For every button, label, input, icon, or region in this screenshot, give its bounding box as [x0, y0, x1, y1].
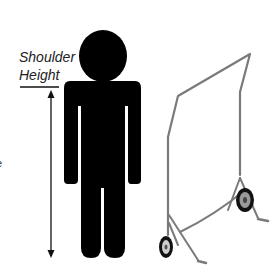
person-pictogram	[64, 30, 141, 258]
shoulder-height-diagram: Shoulder Height e	[0, 0, 278, 273]
rack-base-bar	[180, 190, 245, 232]
cropped-edge-text: e	[0, 157, 2, 169]
person-right-leg	[104, 180, 125, 258]
person-head	[79, 30, 127, 82]
rack-wheel-right	[236, 188, 254, 212]
rack-wheel-left	[159, 236, 173, 258]
shoulder-label: Shoulder	[19, 49, 75, 66]
arrowhead-down-icon	[48, 250, 55, 258]
person-torso	[64, 81, 141, 184]
rack-frame	[168, 54, 250, 235]
person-left-leg	[81, 180, 101, 258]
height-label: Height	[19, 67, 59, 84]
measurement-arrow	[48, 90, 55, 258]
diagram-graphics	[0, 0, 278, 273]
arrowhead-up-icon	[48, 90, 55, 98]
garment-rack	[168, 54, 268, 263]
